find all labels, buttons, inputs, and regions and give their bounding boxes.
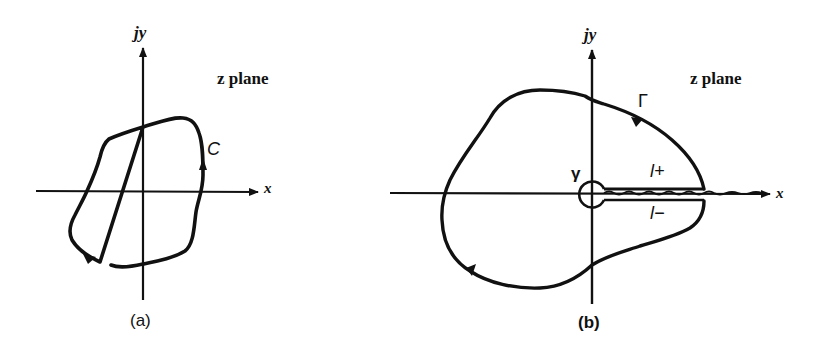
figure-canvas <box>0 0 814 356</box>
y-axis-label-a: jy <box>134 24 146 41</box>
cut-label-lminus: l− <box>650 204 665 222</box>
x-axis-a <box>36 191 258 192</box>
cut-label-lplus: l+ <box>650 162 665 180</box>
arrow-c-right <box>199 158 207 170</box>
contour-label-gamma-upper: Γ <box>638 92 648 110</box>
plane-label-b: z plane <box>690 70 741 87</box>
plane-label-a: z plane <box>217 70 268 87</box>
caption-b: (b) <box>578 314 600 331</box>
x-axis-label-a: x <box>264 181 272 196</box>
caption-a: (a) <box>130 312 151 329</box>
contour-label-c: C <box>207 140 220 158</box>
x-axis-label-b: x <box>776 186 784 201</box>
circle-label-gamma-lower: γ <box>571 165 580 182</box>
y-axis-label-b: jy <box>584 26 596 43</box>
